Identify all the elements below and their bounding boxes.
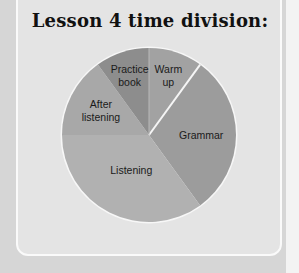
slice-label: Listening bbox=[110, 164, 152, 176]
slice-label: Grammar bbox=[179, 129, 224, 141]
pie-chart: WarmupGrammarListeningAfterlisteningPrac… bbox=[0, 0, 299, 273]
